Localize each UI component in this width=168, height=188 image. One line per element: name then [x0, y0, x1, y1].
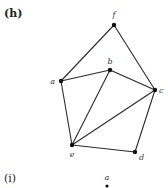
vertex-label-d: d [139, 153, 144, 162]
edge-c-d [135, 90, 155, 152]
edge-e-d [72, 145, 135, 152]
edge-a-e [61, 81, 72, 145]
vertex-a [59, 79, 63, 83]
vertex-f [112, 23, 116, 27]
vertex-e [70, 143, 74, 147]
vertex-label-c: c [159, 86, 164, 95]
graph-i: a [105, 173, 110, 188]
edge-a-b [61, 70, 110, 81]
edge-f-c [114, 25, 155, 90]
vertex-label-b: b [107, 57, 112, 66]
vertex-d [133, 150, 137, 154]
vertices-i: a [105, 173, 110, 188]
vertex-a [105, 184, 108, 187]
panel-label-h: (h) [4, 7, 22, 20]
vertex-label-a: a [105, 173, 110, 182]
vertex-label-a: a [50, 77, 55, 86]
edge-c-e [72, 90, 155, 145]
vertex-b [108, 68, 112, 72]
edge-f-a [61, 25, 114, 81]
graph-diagram: (h) fabced (i) a [0, 0, 168, 188]
vertex-label-f: f [112, 10, 118, 19]
edge-b-e [72, 70, 110, 145]
vertex-c [153, 88, 157, 92]
vertex-label-e: e [70, 150, 75, 159]
edges-h [61, 25, 155, 152]
graph-h: fabced [50, 10, 164, 162]
panel-label-i: (i) [4, 172, 16, 185]
